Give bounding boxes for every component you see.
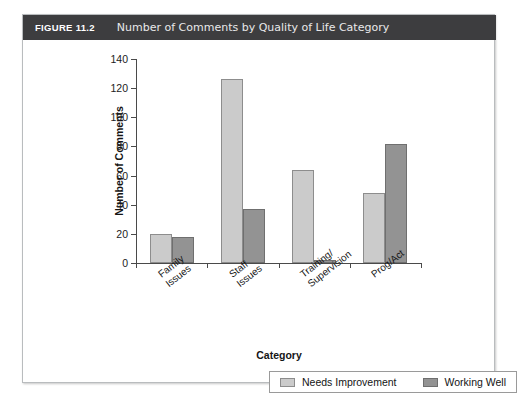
legend-item: Working Well: [423, 376, 506, 388]
y-tick-label: 20: [116, 228, 128, 240]
y-axis-line: [136, 59, 137, 264]
y-tick-label: 40: [116, 199, 128, 211]
legend-swatch: [423, 378, 438, 387]
y-tick: [131, 88, 136, 89]
bar: [221, 79, 243, 263]
x-tick: [136, 263, 137, 268]
y-tick-label: 80: [116, 140, 128, 152]
x-tick: [421, 263, 422, 268]
y-tick-label: 60: [116, 170, 128, 182]
y-tick-label: 140: [110, 53, 128, 65]
chart-plot-area: Number of Comments 020406080100120140 Fa…: [23, 40, 496, 383]
x-tick: [279, 263, 280, 268]
x-tick: [207, 263, 208, 268]
y-tick: [131, 146, 136, 147]
figure-number-label: FIGURE 11.2: [35, 22, 95, 33]
plot-region: Number of Comments 020406080100120140 Fa…: [136, 59, 421, 263]
y-tick-label: 0: [122, 257, 128, 269]
bar: [292, 170, 314, 263]
figure-caption: Number of Comments by Quality of Life Ca…: [117, 21, 389, 34]
y-tick: [131, 117, 136, 118]
x-axis-title: Category: [136, 349, 422, 361]
chart-legend: Needs ImprovementWorking Well: [269, 371, 517, 393]
figure-frame: FIGURE 11.2 Number of Comments by Qualit…: [22, 14, 495, 383]
legend-label: Working Well: [445, 376, 506, 388]
legend-swatch: [280, 378, 295, 387]
x-tick: [350, 263, 351, 268]
y-tick: [131, 59, 136, 60]
bar: [363, 193, 385, 263]
y-tick-label: 100: [110, 111, 128, 123]
y-tick-label: 120: [110, 82, 128, 94]
y-tick: [131, 176, 136, 177]
figure-header: FIGURE 11.2 Number of Comments by Qualit…: [23, 15, 496, 40]
bar: [385, 144, 407, 263]
y-tick: [131, 234, 136, 235]
bar: [150, 234, 172, 263]
legend-item: Needs Improvement: [280, 376, 397, 388]
legend-label: Needs Improvement: [302, 376, 397, 388]
y-tick: [131, 205, 136, 206]
